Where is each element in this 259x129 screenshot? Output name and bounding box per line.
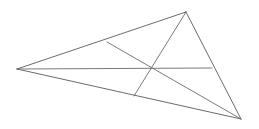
geometry-figure bbox=[0, 0, 259, 129]
triangle-cevian-diagram bbox=[0, 0, 259, 129]
figure-background bbox=[0, 0, 259, 129]
